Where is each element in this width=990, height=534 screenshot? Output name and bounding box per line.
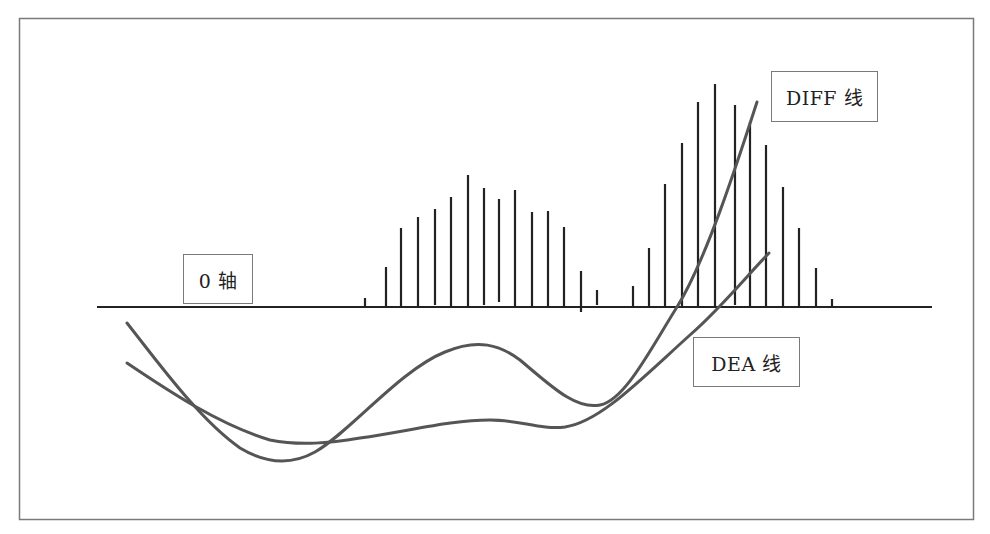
dea-line-label: DEA 线 — [693, 337, 800, 387]
dea-line-label-text: DEA 线 — [711, 349, 781, 376]
diff-line-label: DIFF 线 — [771, 71, 878, 122]
macd-diagram: 0 轴 DIFF 线 DEA 线 — [0, 0, 990, 534]
zero-axis-label: 0 轴 — [183, 254, 253, 304]
diff-line-label-text: DIFF 线 — [786, 83, 863, 110]
zero-axis-label-text: 0 轴 — [199, 266, 238, 293]
